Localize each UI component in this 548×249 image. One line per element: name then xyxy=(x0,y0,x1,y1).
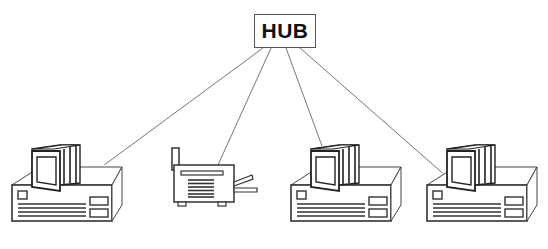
edge-hub-printer xyxy=(218,48,271,165)
hub-label: HUB xyxy=(262,19,309,43)
hub-node: HUB xyxy=(254,14,316,48)
computer-icon xyxy=(291,145,401,221)
connection-lines xyxy=(92,48,447,177)
computer-icon xyxy=(12,145,122,221)
printer-icon xyxy=(172,148,257,206)
computer-icon xyxy=(427,145,537,221)
